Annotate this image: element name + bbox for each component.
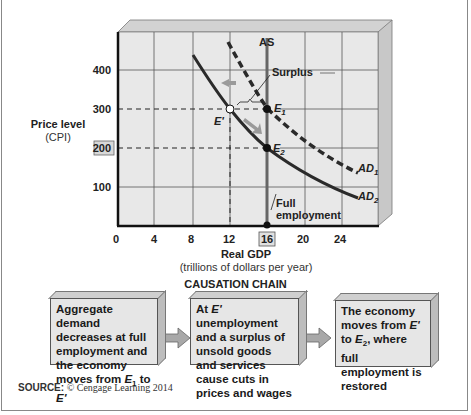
- y-axis-title: Price level: [31, 118, 85, 130]
- causation-box-2: At E' unemployment and a surplus of unso…: [190, 298, 299, 365]
- as-label: AS: [259, 36, 274, 48]
- x-tick-12: 12: [223, 233, 235, 245]
- surplus-label: Surplus: [272, 66, 313, 78]
- y-axis-subtitle: (CPI): [45, 131, 71, 143]
- point-e2: [263, 144, 271, 152]
- box3-bevel-side: [431, 292, 439, 368]
- source-label: SOURCE:: [18, 382, 64, 393]
- y-tick-400: 400: [93, 64, 111, 76]
- x-tick-4: 4: [151, 233, 158, 245]
- box1-bevel-side: [158, 290, 166, 366]
- plot-bevel-top: [118, 20, 392, 32]
- y-tick-300: 300: [93, 103, 111, 115]
- e-prime-label: E': [214, 115, 224, 127]
- x-tick-16: 16: [261, 233, 273, 245]
- x-axis-subtitle: (trillions of dollars per year): [180, 261, 313, 273]
- full-employment-label-2: employment: [276, 209, 341, 221]
- y-tick-100: 100: [93, 181, 111, 193]
- x-tick-8: 8: [188, 233, 194, 245]
- box2-bevel-side: [299, 290, 307, 366]
- chain-arrow-1: [165, 328, 190, 348]
- y-tick-200: 200: [93, 142, 111, 154]
- x-axis-title: Real GDP: [221, 248, 271, 260]
- causation-box-3: The economy moves from E' to E2, where f…: [335, 300, 431, 367]
- point-e-prime: [226, 105, 234, 113]
- full-employment-label-1: Full: [276, 197, 296, 209]
- x-tick-24: 24: [334, 233, 347, 245]
- chain-arrow-2: [306, 328, 331, 348]
- x-tick-20: 20: [297, 233, 309, 245]
- point-full-employment: [264, 222, 271, 229]
- point-e1: [263, 105, 271, 113]
- causation-box-1: Aggregate demand decreases at full emplo…: [50, 298, 158, 365]
- causation-chain-title: CAUSATION CHAIN: [0, 278, 471, 290]
- plot-bevel-right: [378, 20, 392, 226]
- source-note: SOURCE: © Cengage Learning 2014: [18, 382, 173, 393]
- x-tick-0: 0: [113, 233, 119, 245]
- source-text: © Cengage Learning 2014: [67, 382, 173, 393]
